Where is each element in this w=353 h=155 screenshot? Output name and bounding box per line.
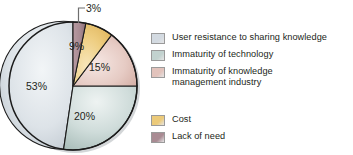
chart-legend: User resistance to sharing knowledge Imm… <box>151 31 353 147</box>
legend-item-user-resistance[interactable]: User resistance to sharing knowledge <box>151 31 353 48</box>
legend-swatch-icon <box>151 132 165 143</box>
legend-item-immaturity-km-industry[interactable]: Immaturity of knowledge management indus… <box>151 65 353 93</box>
slice-data-label-3: 3% <box>86 2 101 14</box>
legend-item-label: Lack of need <box>172 130 225 142</box>
legend-swatch-icon <box>151 67 165 78</box>
legend-item-label: Cost <box>172 113 191 125</box>
slice-data-label-20: 20% <box>74 110 95 122</box>
legend-item-immaturity-technology[interactable]: Immaturity of technology <box>151 48 353 65</box>
legend-swatch-icon <box>151 50 165 61</box>
legend-swatch-icon <box>151 33 165 44</box>
pie-chart-figure: 53% 20% 15% 9% 3% User resistance to sha… <box>0 0 353 155</box>
slice-data-label-15: 15% <box>89 61 110 73</box>
leader-line-lack-of-need <box>79 8 86 23</box>
legend-item-label: Immaturity of technology <box>172 48 273 60</box>
legend-item-lack-of-need[interactable]: Lack of need <box>151 130 353 147</box>
pie-chart-plot: 53% 20% 15% 9% 3% <box>0 0 150 155</box>
legend-swatch-icon <box>151 115 165 126</box>
legend-item-label: User resistance to sharing knowledge <box>172 31 327 43</box>
slice-data-label-9: 9% <box>69 40 84 52</box>
slice-data-label-53: 53% <box>26 80 47 92</box>
legend-item-cost[interactable]: Cost <box>151 113 353 130</box>
legend-item-label: Immaturity of knowledge management indus… <box>172 65 273 88</box>
pie-svg <box>0 0 150 155</box>
